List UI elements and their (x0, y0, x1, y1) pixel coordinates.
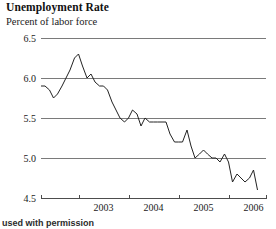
x-axis-tick-label: 2006 (244, 202, 264, 213)
figure-caption: used with permission (2, 218, 276, 228)
line-chart-plot: 6.56.05.55.04.5 2003200420052006 (0, 0, 276, 229)
data-series-line (41, 54, 258, 190)
y-axis-tick-label: 5.0 (24, 153, 37, 164)
x-axis-tick-labels: 2003200420052006 (94, 202, 264, 213)
gridlines (41, 39, 266, 159)
x-axis-tick-label: 2003 (94, 202, 114, 213)
x-axis (41, 195, 267, 199)
y-axis-tick-label: 5.5 (24, 113, 37, 124)
y-axis-tick-label: 4.5 (24, 193, 37, 204)
chart-figure: Unemployment Rate Percent of labor force… (0, 0, 276, 229)
x-axis-tick-label: 2005 (194, 202, 214, 213)
y-axis-tick-labels: 6.56.05.55.04.5 (24, 33, 37, 204)
y-axis-tick-label: 6.0 (24, 73, 37, 84)
y-axis-tick-label: 6.5 (24, 33, 37, 44)
x-axis-tick-label: 2004 (144, 202, 164, 213)
data-series-group (41, 54, 258, 190)
